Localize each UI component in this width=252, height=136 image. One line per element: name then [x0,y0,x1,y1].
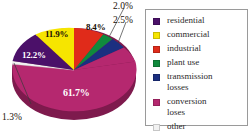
legend-label-conversion-loses: conversion loses [167,96,207,118]
callout-label-plant-use: 2.0% [113,1,133,11]
legend-item-transmission-losses[interactable]: transmission losses [153,71,247,95]
legend-item-other[interactable]: other [153,121,247,134]
slice-label-industrial: 8.4% [86,22,105,32]
legend-swatch-residential [153,18,160,25]
legend-swatch-industrial [153,46,160,53]
legend-item-commercial[interactable]: commercial [153,29,247,42]
chart-legend: residential commercial industrial plant … [145,9,248,126]
legend-swatch-transmission-losses [153,74,160,81]
slice-label-commercial: 11.9% [45,29,68,39]
legend-item-plant-use[interactable]: plant use [153,57,247,70]
callout-label-transmission-losses: 2.5% [113,15,133,25]
legend-label-plant-use: plant use [167,57,199,68]
pie-chart-figure: 61.7% 12.2% 11.9% 8.4% 2.0% 2.5% 1.3% re… [0,0,252,136]
legend-label-transmission-losses: transmission losses [167,71,213,93]
legend-swatch-other [153,124,160,131]
legend-item-industrial[interactable]: industrial [153,43,247,56]
callout-label-other: 1.3% [2,112,22,122]
legend-swatch-conversion-loses [153,99,160,106]
legend-swatch-commercial [153,32,160,39]
slice-label-conversion-loses: 61.7% [63,87,90,98]
legend-label-industrial: industrial [167,43,201,54]
legend-label-other: other [167,121,186,132]
pie-chart-area: 61.7% 12.2% 11.9% 8.4% 2.0% 2.5% 1.3% [0,0,146,136]
legend-swatch-plant-use [153,60,160,67]
legend-item-residential[interactable]: residential [153,15,247,28]
slice-label-residential: 12.2% [22,50,46,60]
legend-item-conversion-loses[interactable]: conversion loses [153,96,247,120]
legend-label-residential: residential [167,15,205,26]
legend-label-commercial: commercial [167,29,209,40]
